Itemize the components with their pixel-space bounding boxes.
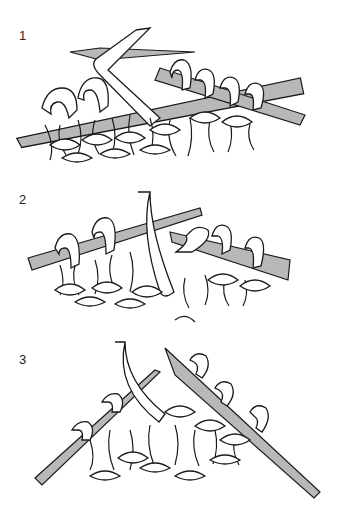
working-yarn [115, 342, 165, 422]
right-needle [70, 48, 195, 60]
step-3: 3 [0, 330, 344, 509]
knitting-illustration-step-3 [0, 330, 344, 509]
step-2: 2 [0, 170, 344, 330]
knitting-illustration-step-2 [0, 170, 344, 330]
working-yarn [138, 192, 174, 296]
working-yarn [94, 28, 160, 126]
step-1: 1 [0, 0, 344, 170]
knitting-illustration-step-1 [0, 0, 344, 170]
